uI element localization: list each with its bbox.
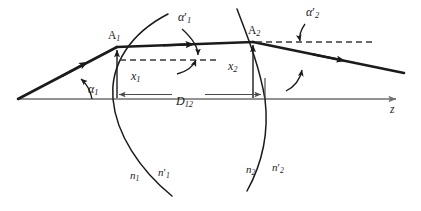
label-index-n1-prime-subscript: 1: [166, 171, 170, 180]
label-angle-alpha1-prime: α′1: [178, 11, 191, 26]
label-angle-alpha2-prime-subscript: 2: [315, 11, 319, 20]
angle-alpha2-prime-arc: [286, 70, 302, 91]
label-index-n1-prime: n′1: [158, 167, 170, 180]
angle-alpha1-prime-arc: [177, 60, 196, 74]
angle-alpha2-prime-leader: [300, 24, 305, 41]
label-point-a1: A1: [108, 30, 120, 43]
label-point-a1-subscript: 1: [116, 34, 120, 43]
label-angle-alpha1-prime-subscript: 1: [187, 16, 191, 25]
label-distance-d12: D12: [176, 95, 193, 110]
angle-alpha1-prime-leader: [182, 29, 198, 55]
label-index-n2-prime-subscript: 2: [280, 166, 284, 175]
optics-diagram-figure: A1 A2 α1 α′1 α′2 x1 x2 D12 n1 n′1 n2 n′2…: [0, 0, 421, 211]
label-distance-d12-symbol: D: [176, 94, 185, 108]
label-index-n1: n1: [130, 170, 139, 183]
label-ray-height-x1: x1: [131, 70, 141, 85]
label-ray-height-x1-subscript: 1: [136, 75, 140, 84]
label-ray-height-x2: x2: [228, 60, 238, 75]
label-angle-alpha1-subscript: 1: [94, 88, 98, 97]
label-axis-z: z: [390, 104, 394, 116]
label-axis-z-symbol: z: [390, 103, 394, 115]
intermediate-ray-direction-arrow: [163, 44, 190, 45]
label-point-a2: A2: [248, 25, 260, 38]
label-angle-alpha1: α1: [88, 83, 99, 98]
emergent-ray-direction-arrow: [313, 54, 341, 60]
label-point-a2-subscript: 2: [256, 29, 260, 38]
label-angle-alpha2-prime: α′2: [306, 6, 319, 21]
label-index-n2: n2: [246, 164, 255, 177]
label-ray-height-x2-subscript: 2: [233, 65, 237, 74]
label-distance-d12-subscript: 12: [185, 100, 193, 109]
label-index-n2-prime: n′2: [272, 162, 284, 175]
incident-ray-direction-arrow: [62, 64, 84, 76]
label-index-n1-subscript: 1: [136, 174, 140, 183]
diagram-canvas: [0, 0, 421, 211]
label-index-n2-subscript: 2: [252, 168, 256, 177]
